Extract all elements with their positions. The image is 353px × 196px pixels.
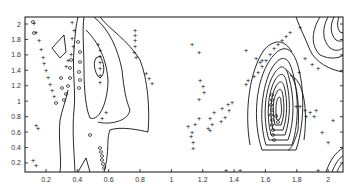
svg-text:+: + <box>197 115 201 123</box>
svg-text:+: + <box>297 69 301 77</box>
svg-text:+: + <box>197 96 201 104</box>
svg-text:+: + <box>72 27 76 35</box>
svg-text:+: + <box>134 54 138 62</box>
svg-text:+: + <box>206 125 210 133</box>
svg-text:+: + <box>37 37 41 45</box>
x-tick-label: 1.4 <box>229 176 239 183</box>
svg-text:+: + <box>224 167 228 175</box>
y-tick-label: 0.6 <box>11 129 21 136</box>
x-tick-label: 1.6 <box>261 176 271 183</box>
svg-text:+: + <box>326 139 330 147</box>
y-tick-label: 1.6 <box>11 51 21 58</box>
x-tick-label: 2 <box>326 176 330 183</box>
svg-text:+: + <box>331 117 335 125</box>
svg-text:+: + <box>226 101 230 109</box>
svg-text:+: + <box>193 121 197 129</box>
svg-text:+: + <box>150 80 154 88</box>
data-markers: ++++++++++++++++++++++++++++++++++++++++… <box>31 19 335 175</box>
svg-text:+: + <box>210 121 214 129</box>
svg-text:+: + <box>303 55 307 63</box>
svg-text:+: + <box>316 167 320 175</box>
svg-text:+: + <box>39 46 43 54</box>
svg-text:+: + <box>298 103 302 111</box>
svg-text:+: + <box>70 35 74 43</box>
svg-text:+: + <box>34 29 38 37</box>
svg-text:+: + <box>64 63 68 71</box>
svg-text:+: + <box>197 49 201 57</box>
svg-text:+: + <box>304 113 308 121</box>
y-tick-label: 0.4 <box>11 144 21 151</box>
svg-text:+: + <box>244 47 248 55</box>
svg-text:+: + <box>258 59 262 67</box>
svg-text:+: + <box>34 162 38 170</box>
svg-text:+: + <box>220 105 224 113</box>
svg-text:+: + <box>288 29 292 37</box>
svg-text:+: + <box>246 77 250 85</box>
y-tick-label: 0.8 <box>11 113 21 120</box>
x-axis-ticks: 0.20.40.60.811.21.41.61.82 <box>41 169 330 183</box>
y-tick-label: 1.2 <box>11 82 21 89</box>
svg-text:+: + <box>298 24 302 32</box>
svg-text:+: + <box>320 129 324 137</box>
svg-text:+: + <box>190 41 194 49</box>
y-tick-label: 1 <box>17 98 21 105</box>
svg-text:+: + <box>202 89 206 97</box>
svg-text:+: + <box>52 93 56 101</box>
x-tick-label: 1.8 <box>292 176 302 183</box>
svg-text:+: + <box>310 61 314 69</box>
svg-text:+: + <box>223 114 227 122</box>
x-tick-label: 1.2 <box>198 176 208 183</box>
svg-text:+: + <box>100 115 104 123</box>
y-tick-label: 0.2 <box>11 159 21 166</box>
y-tick-label: 1.4 <box>11 67 21 74</box>
svg-text:+: + <box>98 79 102 87</box>
svg-text:+: + <box>212 109 216 117</box>
y-tick-label: 2 <box>17 21 21 28</box>
y-tick-label: 1.8 <box>11 36 21 43</box>
x-tick-label: 0.6 <box>104 176 114 183</box>
contour-plot: 0.20.40.60.811.21.41.61.82 0.20.40.60.81… <box>0 0 353 196</box>
x-tick-label: 0.4 <box>73 176 83 183</box>
x-tick-label: 0.2 <box>41 176 51 183</box>
svg-text:+: + <box>34 122 38 130</box>
svg-text:+: + <box>70 19 74 27</box>
x-tick-label: 0.8 <box>135 176 145 183</box>
svg-text:+: + <box>104 109 108 117</box>
svg-text:+: + <box>316 65 320 73</box>
svg-text:+: + <box>230 99 234 107</box>
svg-text:+: + <box>71 43 75 51</box>
svg-text:+: + <box>314 107 318 115</box>
svg-text:+: + <box>238 167 242 175</box>
svg-text:+: + <box>191 145 195 153</box>
x-tick-label: 1 <box>169 176 173 183</box>
